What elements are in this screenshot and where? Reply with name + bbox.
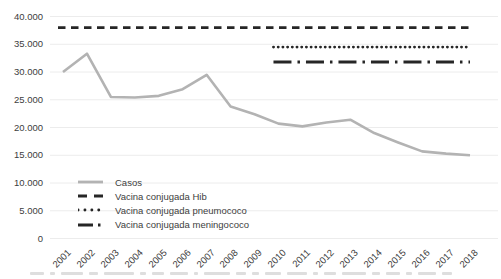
y-axis-label: 40.000	[0, 11, 43, 23]
legend-swatch-solid	[78, 179, 103, 185]
y-axis-label: 0	[0, 233, 43, 245]
meningitis-cases-vaccines-chart: 40.00035.00030.00025.00020.00015.00010.0…	[0, 0, 501, 279]
legend-swatch-dash-dot	[78, 222, 103, 228]
legend-label: Casos	[115, 177, 142, 188]
cropped-caption-fragment	[30, 272, 498, 277]
legend-swatch-dashed	[78, 193, 103, 199]
legend-swatch-dotted	[78, 207, 103, 213]
y-axis-label: 20.000	[0, 122, 43, 134]
legend-label: Vacina conjugada pneumococo	[115, 205, 247, 216]
y-axis-label: 15.000	[0, 149, 43, 161]
legend-item: Casos	[78, 175, 249, 189]
y-axis-label: 30.000	[0, 66, 43, 78]
series-line-casos	[63, 54, 470, 156]
y-axis-label: 35.000	[0, 38, 43, 50]
legend-item: Vacina conjugada meningococo	[78, 218, 249, 232]
legend-label: Vacina conjugada Hib	[115, 191, 207, 202]
y-axis-label: 5.000	[0, 205, 43, 217]
plot-area	[0, 0, 501, 279]
y-axis-label: 10.000	[0, 177, 43, 189]
legend: CasosVacina conjugada HibVacina conjugad…	[78, 175, 249, 232]
legend-label: Vacina conjugada meningococo	[115, 219, 249, 230]
legend-item: Vacina conjugada Hib	[78, 189, 249, 203]
legend-item: Vacina conjugada pneumococo	[78, 203, 249, 217]
y-axis-label: 25.000	[0, 94, 43, 106]
